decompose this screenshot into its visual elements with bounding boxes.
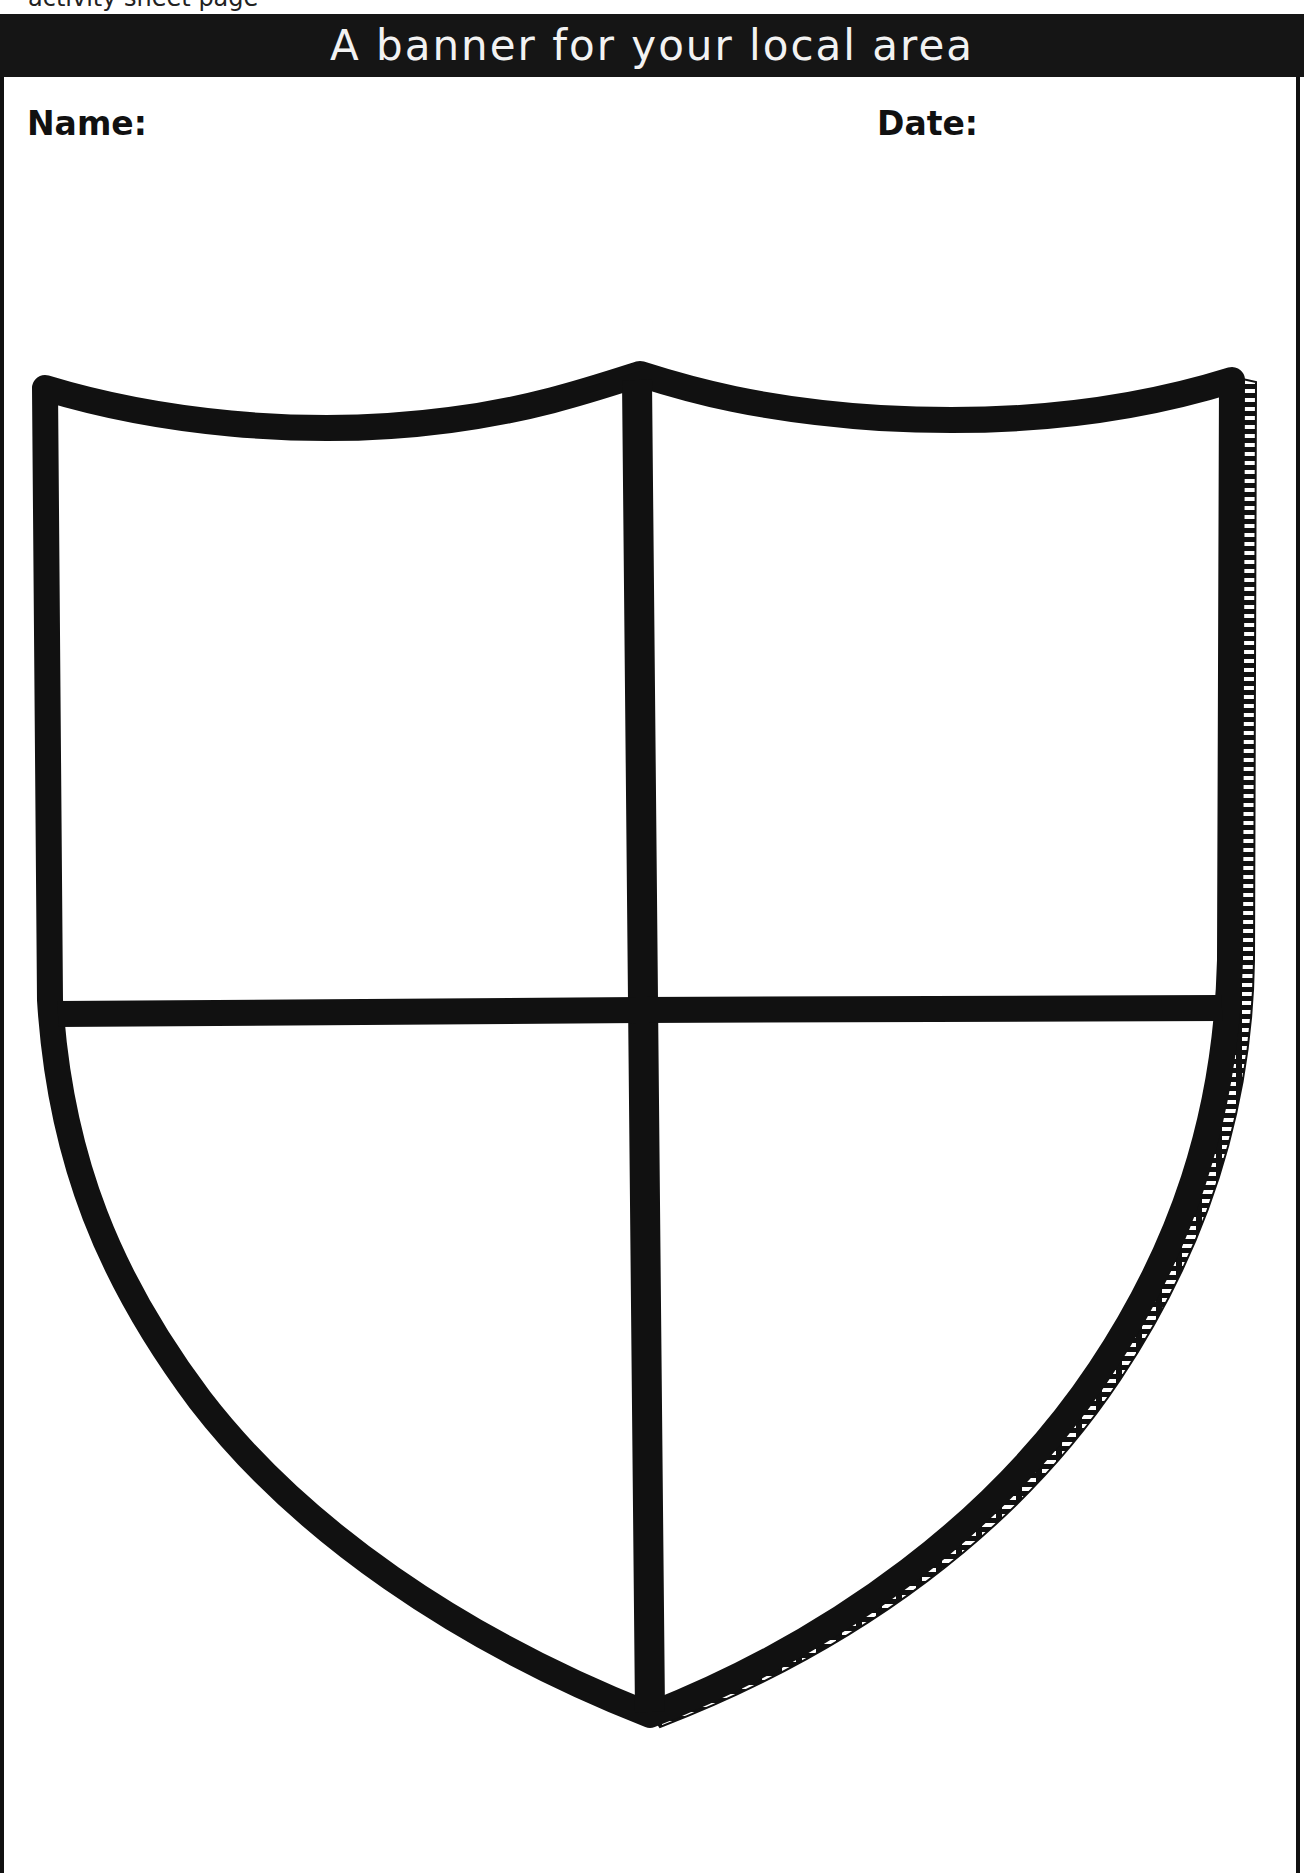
shield-drawing: [0, 0, 1304, 1873]
shield-vertical-divider: [637, 380, 650, 1712]
shield-horizontal-divider: [58, 1008, 1222, 1014]
